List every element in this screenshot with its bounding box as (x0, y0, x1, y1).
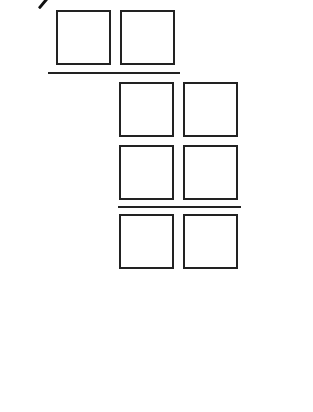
digit-box-bottom-1 (119, 214, 174, 269)
rule-line-bottom (118, 206, 241, 208)
digit-box-mid2-2 (183, 145, 238, 200)
digit-box-bottom-2 (183, 214, 238, 269)
rule-line-top (48, 72, 180, 74)
digit-box-mid1-2 (183, 82, 238, 137)
digit-box-mid1-1 (119, 82, 174, 137)
digit-box-mid2-1 (119, 145, 174, 200)
digit-box-top-1 (56, 10, 111, 65)
digit-box-top-2 (120, 10, 175, 65)
pen-stroke-mark (38, 0, 49, 9)
